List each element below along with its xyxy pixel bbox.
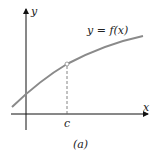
figure: y x y = f(x) c (a) (0, 0, 163, 159)
curve-f (12, 36, 143, 107)
curve-label: y = f(x) (86, 24, 128, 37)
point-c-label: c (64, 117, 70, 130)
y-axis-label: y (30, 5, 38, 18)
function-graph: y x y = f(x) c (a) (0, 0, 163, 159)
x-axis-label: x (143, 101, 150, 114)
open-point (65, 62, 69, 66)
caption: (a) (73, 138, 88, 151)
